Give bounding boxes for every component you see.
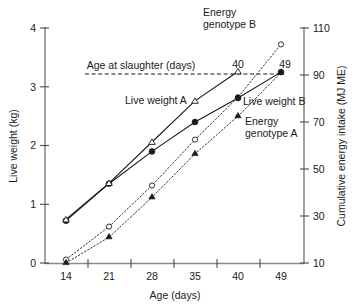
x-tick-label-35: 35: [189, 270, 201, 282]
x-tick-label-40: 40: [232, 270, 244, 282]
left-axis-tick-labels: 4 3 2 1 0: [30, 22, 36, 269]
left-tick-label-4: 4: [30, 22, 36, 34]
left-tick-label-3: 3: [30, 81, 36, 93]
series-markers-energy-genotype-b: [63, 42, 283, 262]
right-tick-label-30: 30: [313, 210, 325, 222]
slaughter-point-a-label: 40: [232, 58, 244, 70]
x-tick-label-21: 21: [103, 270, 115, 282]
x-axis-title: Age (days): [150, 289, 201, 301]
y2-axis-title: Cumulative energy intake (MJ ME): [335, 65, 347, 226]
x-tick-label-49: 49: [275, 270, 287, 282]
left-tick-label-2: 2: [30, 139, 36, 151]
live-weight-a-label: Live weight A: [125, 94, 187, 106]
slaughter-point-b-label: 49: [279, 58, 291, 70]
right-tick-label-110: 110: [313, 22, 330, 34]
chart-figure: 4 3 2 1 0 110 90 70 50 30 10: [0, 0, 355, 307]
left-tick-label-1: 1: [30, 198, 36, 210]
left-tick-label-0: 0: [30, 257, 36, 269]
chart-plot-area: 4 3 2 1 0 110 90 70 50 30 10: [0, 0, 355, 307]
energy-genotype-b-label-line1: Energy: [203, 6, 237, 18]
series-line-energy-genotype-b: [66, 44, 281, 259]
age-at-slaughter-label: Age at slaughter (days): [87, 59, 196, 71]
series-markers-live-weight-b: [63, 69, 284, 223]
energy-genotype-a-label-line2: genotype A: [245, 127, 298, 139]
right-tick-label-70: 70: [313, 116, 325, 128]
energy-genotype-a-label-line1: Energy: [245, 115, 279, 127]
x-tick-label-28: 28: [146, 270, 158, 282]
bottom-axis-tick-labels: 14 21 28 35 40 49: [60, 270, 287, 282]
live-weight-b-label: Live weight B: [243, 95, 305, 107]
y-axis-title: Live weight (kg): [7, 109, 19, 183]
x-tick-label-14: 14: [60, 270, 72, 282]
right-tick-label-10: 10: [313, 257, 325, 269]
energy-genotype-b-label-line2: genotype B: [203, 18, 256, 30]
right-tick-label-50: 50: [313, 163, 325, 175]
right-tick-label-90: 90: [313, 69, 325, 81]
right-axis-tick-labels: 110 90 70 50 30 10: [313, 22, 330, 269]
